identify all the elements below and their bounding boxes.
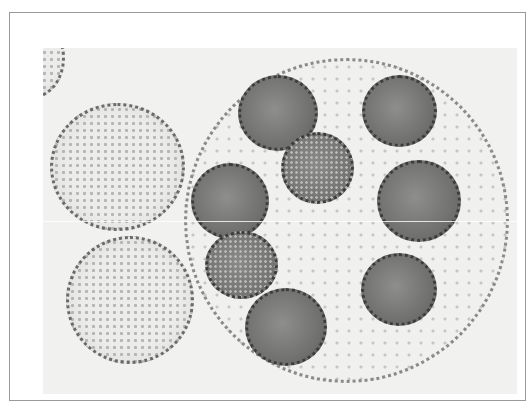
image-frame [9,12,526,401]
daughter-colony [377,160,461,242]
scan-artifact-line [43,221,517,222]
daughter-colony [361,253,437,326]
daughter-colony [362,75,437,147]
daughter-colony [281,132,354,204]
small-colony-upper [50,103,185,231]
daughter-colony [205,231,278,299]
daughter-colony [245,288,327,366]
partial-colony [43,48,65,98]
small-colony-lower [66,236,194,364]
daughter-colony [191,163,269,239]
micrograph-photo [43,48,517,394]
